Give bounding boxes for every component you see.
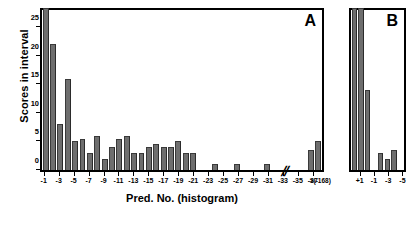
x-tick-label: +1 [356, 177, 364, 184]
bar [94, 136, 100, 170]
bar [391, 150, 396, 170]
x-tick [133, 172, 134, 176]
x-tick-label: -17 [158, 177, 168, 184]
y-axis-label: Scores in interval [18, 6, 30, 146]
bar [124, 136, 130, 170]
x-tick [268, 172, 269, 176]
x-tick [44, 172, 45, 176]
bar [168, 147, 174, 170]
x-tick-label: -5 [399, 177, 405, 184]
x-axis-label: Pred. No. (histogram) [40, 192, 324, 204]
x-tick-label: -9 [100, 177, 106, 184]
x-tick-label: -23 [203, 177, 213, 184]
y-tick-label-5: 5 [35, 128, 39, 137]
bar [109, 147, 115, 170]
x-tick-label: -31 [263, 177, 273, 184]
bar [358, 8, 363, 170]
x-tick-label: -7 [85, 177, 91, 184]
x-tick [89, 172, 90, 176]
y-tick-label-10: 10 [31, 99, 39, 108]
panel-b-x-axis: +1-1-3-5 [349, 172, 406, 178]
x-tick [223, 172, 224, 176]
bar [43, 8, 49, 170]
x-tick-label: -29 [248, 177, 258, 184]
bar [264, 164, 270, 170]
x-tick [253, 172, 254, 176]
bar [80, 139, 86, 170]
bar [131, 153, 137, 170]
bar [65, 79, 71, 170]
x-tick-label: -35 [293, 177, 303, 184]
x-tick-label: -11 [114, 177, 124, 184]
x-tick [118, 172, 119, 176]
x-tick [178, 172, 179, 176]
x-tick-label: -5 [71, 177, 77, 184]
x-tick-label: -1 [41, 177, 47, 184]
bar [183, 153, 189, 170]
bar [50, 44, 56, 170]
y-tick-label-20: 20 [31, 42, 39, 51]
bar [212, 164, 218, 170]
bar [315, 141, 321, 170]
bar [365, 90, 370, 170]
panel-b: B [349, 8, 406, 172]
x-tick [298, 172, 299, 176]
bar [102, 159, 108, 170]
panel-b-bars [351, 10, 404, 170]
x-tick [238, 172, 239, 176]
panel-a-bars [42, 10, 322, 170]
bar [234, 164, 240, 170]
x-tick [313, 172, 314, 176]
x-tick [388, 172, 389, 176]
bar [146, 147, 152, 170]
bar [352, 8, 357, 170]
bar [153, 144, 159, 170]
x-tick-label-offscale: >(-168) [310, 177, 331, 184]
x-tick-label: -3 [56, 177, 62, 184]
bar [72, 141, 78, 170]
x-tick [104, 172, 105, 176]
x-tick [59, 172, 60, 176]
bar [308, 150, 314, 170]
bar [116, 139, 122, 170]
x-tick [163, 172, 164, 176]
x-tick-label: -1 [371, 177, 377, 184]
x-tick [74, 172, 75, 176]
bar [161, 147, 167, 170]
x-tick [193, 172, 194, 176]
x-tick-label: -25 [218, 177, 228, 184]
x-tick-label: -13 [128, 177, 138, 184]
x-tick-label: -27 [233, 177, 243, 184]
x-tick [402, 172, 403, 176]
figure-histogram-panels: Scores in interval A 0 5 10 15 20 25 -1-… [0, 0, 410, 228]
x-tick [208, 172, 209, 176]
x-tick [360, 172, 361, 176]
x-tick [148, 172, 149, 176]
bar [190, 153, 196, 170]
x-tick-label: -3 [385, 177, 391, 184]
y-tick-label-25: 25 [31, 13, 39, 22]
y-tick-label-0: 0 [35, 156, 39, 165]
x-tick [374, 172, 375, 176]
bar [139, 153, 145, 170]
bar [175, 141, 181, 170]
bar [87, 153, 93, 170]
bar [385, 159, 390, 170]
x-tick-label: -15 [143, 177, 153, 184]
panel-a: A 0 5 10 15 20 25 [40, 8, 324, 172]
x-tick-label: -21 [188, 177, 198, 184]
bar [57, 124, 63, 170]
x-tick-label: -19 [173, 177, 183, 184]
bar [378, 153, 383, 170]
y-tick-label-15: 15 [31, 71, 39, 80]
